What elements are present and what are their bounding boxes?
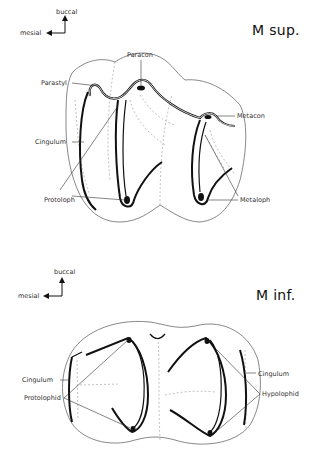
- protoloph-label: Protoloph: [44, 197, 75, 204]
- upper-mesial-label: mesial: [20, 30, 41, 37]
- lower-tooth: [60, 321, 260, 444]
- upper-orientation-arrows: [49, 18, 65, 33]
- lower-mesial-label: mesial: [18, 293, 39, 300]
- cingulum-label: Cingulum: [35, 139, 66, 146]
- paracon-cusp: [137, 86, 145, 91]
- lower-buccal-label: buccal: [54, 269, 75, 276]
- lower-orientation-arrows: [46, 280, 62, 296]
- metacon-cusp: [205, 115, 212, 119]
- upper-tooth: [60, 53, 246, 222]
- paracon-label: Paracon: [127, 52, 153, 59]
- cingulum-left-label: Cingulum: [22, 377, 53, 384]
- upper-crown-outline: [66, 53, 246, 222]
- metaloph-label: Metaloph: [240, 197, 270, 204]
- lower-title: M inf.: [256, 288, 295, 302]
- parastyl-label: Parastyl: [41, 80, 67, 87]
- metacon-label: Metacon: [237, 113, 265, 120]
- upper-buccal-label: buccal: [56, 9, 77, 16]
- upper-title: M sup.: [252, 23, 300, 37]
- molar-diagram: [0, 0, 310, 454]
- lower-crown-outline: [63, 321, 261, 444]
- hypolophid-label: Hypolophid: [262, 391, 299, 398]
- protolophid-label: Protolophid: [24, 395, 61, 402]
- cingulum-right-label: Cingulum: [258, 371, 289, 378]
